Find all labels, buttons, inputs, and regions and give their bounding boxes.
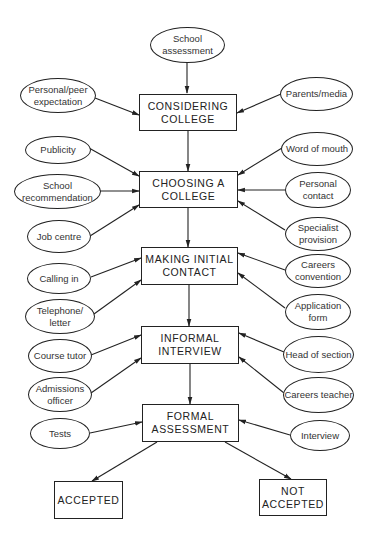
influence-label: Personal/peer expectation [28, 84, 87, 108]
stage-label: FORMAL ASSESSMENT [152, 410, 230, 436]
influence-careers-convention: Careers convention [285, 254, 351, 288]
arrow-specialist-provision [238, 201, 285, 230]
arrow-publicity [89, 148, 139, 176]
influence-telephone-letter: Telephone/ letter [25, 299, 95, 334]
arrow-application-form [238, 273, 285, 308]
influence-label: Head of section [285, 349, 351, 361]
influence-job-centre: Job centre [27, 220, 91, 253]
influence-specialist-provision: Specialist provision [285, 217, 351, 251]
influence-label: Application form [295, 300, 341, 324]
influence-application-form: Application form [285, 294, 351, 330]
arrow-head-of-section [239, 333, 284, 352]
stage-label: CHOOSING A COLLEGE [152, 177, 225, 203]
stage-label: MAKING INITIAL CONTACT [145, 253, 233, 279]
arrow-parents-media [237, 94, 281, 113]
stage-making-initial-contact: MAKING INITIAL CONTACT [141, 247, 238, 285]
influence-label: Tests [49, 428, 71, 440]
arrow-interview [239, 420, 290, 435]
influence-label: Interview [301, 430, 339, 442]
influence-parents-media: Parents/media [280, 77, 353, 111]
influence-label: Specialist provision [298, 222, 339, 246]
influence-label: Admissions officer [36, 383, 85, 407]
stage-formal-assessment: FORMAL ASSESSMENT [142, 404, 239, 442]
influence-admissions-officer: Admissions officer [28, 377, 92, 412]
influence-calling-in: Calling in [27, 263, 91, 294]
outcome-label: ACCEPTED [58, 494, 120, 507]
influence-tests: Tests [30, 418, 90, 449]
arrow-calling-in [91, 258, 141, 277]
influence-head-of-section: Head of section [283, 336, 354, 373]
influence-label: School recommendation [22, 180, 93, 204]
arrow-job-centre [90, 205, 139, 236]
influence-label: Job centre [37, 231, 81, 243]
stage-label: CONSIDERING COLLEGE [148, 100, 229, 126]
influence-label: Course tutor [34, 350, 86, 362]
influence-interview: Interview [290, 420, 350, 451]
influence-label: Parents/media [286, 88, 347, 100]
influence-label: Careers teacher [284, 389, 352, 401]
influence-publicity: Publicity [25, 136, 91, 164]
arrow-personal-peer [95, 98, 139, 115]
influence-label: Telephone/ letter [37, 305, 83, 329]
outcome-label: NOT ACCEPTED [262, 485, 324, 511]
arrow-to-accepted [92, 442, 157, 481]
influence-personal-contact: Personal contact [285, 172, 351, 208]
influence-school-recommendation: School recommendation [14, 174, 101, 209]
influence-label: Personal contact [299, 178, 337, 202]
influence-word-of-mouth: Word of mouth [281, 132, 353, 166]
influence-label: School assessment [162, 33, 213, 57]
influence-label: Publicity [40, 144, 75, 156]
arrow-tests [90, 422, 142, 433]
influence-careers-teacher: Careers teacher [283, 377, 354, 413]
arrow-careers-teacher [239, 357, 284, 393]
influence-school-assessment: School assessment [150, 27, 225, 63]
arrow-telephone-letter [94, 280, 141, 314]
arrow-word-of-mouth [238, 148, 282, 175]
outcome-accepted: ACCEPTED [54, 481, 123, 519]
stage-choosing-a-college: CHOOSING A COLLEGE [139, 171, 238, 208]
outcome-not-accepted: NOT ACCEPTED [259, 479, 327, 516]
influence-course-tutor: Course tutor [28, 339, 92, 373]
arrow-admissions-officer [91, 358, 141, 393]
arrow-course-tutor [91, 335, 141, 355]
influence-label: Word of mouth [286, 143, 348, 155]
stage-informal-interview: INFORMAL INTERVIEW [141, 326, 239, 364]
influence-label: Calling in [39, 273, 78, 285]
stage-label: INFORMAL INTERVIEW [158, 332, 222, 358]
influence-personal-peer-expectation: Personal/peer expectation [20, 78, 96, 113]
influence-label: Careers convention [295, 259, 341, 283]
arrow-careers-convention [238, 253, 285, 270]
arrow-to-not-accepted [225, 442, 291, 479]
stage-considering-college: CONSIDERING COLLEGE [139, 94, 237, 131]
